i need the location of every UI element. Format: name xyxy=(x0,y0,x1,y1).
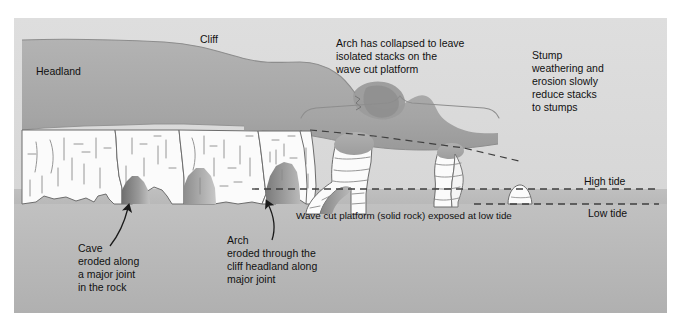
label-headland: Headland xyxy=(36,65,81,77)
svg-text:eroded along: eroded along xyxy=(78,255,139,267)
label-wave-cut-platform: Wave cut platform (solid rock) exposed a… xyxy=(296,210,512,221)
coastal-erosion-diagram: Headland Cliff Arch has collapsed to lea… xyxy=(14,18,667,313)
svg-text:in the rock: in the rock xyxy=(78,281,127,293)
label-low-tide: Low tide xyxy=(588,207,627,219)
diagram-canvas: Headland Cliff Arch has collapsed to lea… xyxy=(0,0,681,332)
svg-text:erosion slowly: erosion slowly xyxy=(532,75,599,87)
label-cliff: Cliff xyxy=(200,33,218,45)
svg-text:isolated stacks on the: isolated stacks on the xyxy=(336,50,437,62)
sea-water-area xyxy=(14,189,667,313)
svg-text:weathering and: weathering and xyxy=(531,62,604,74)
svg-text:cliff headland along: cliff headland along xyxy=(227,260,317,272)
coastal-erosion-svg: Headland Cliff Arch has collapsed to lea… xyxy=(14,18,667,313)
svg-text:major joint: major joint xyxy=(227,273,276,285)
svg-text:Arch: Arch xyxy=(227,234,249,246)
svg-text:to stumps: to stumps xyxy=(532,101,578,113)
svg-text:eroded through the: eroded through the xyxy=(227,247,316,259)
svg-text:a major joint: a major joint xyxy=(78,268,135,280)
svg-text:Cave: Cave xyxy=(78,242,103,254)
svg-text:Arch has collapsed to leave: Arch has collapsed to leave xyxy=(336,37,465,49)
svg-text:reduce stacks: reduce stacks xyxy=(532,88,597,100)
label-high-tide: High tide xyxy=(584,175,626,187)
svg-text:Stump: Stump xyxy=(532,49,563,61)
svg-text:wave cut platform: wave cut platform xyxy=(335,63,419,75)
